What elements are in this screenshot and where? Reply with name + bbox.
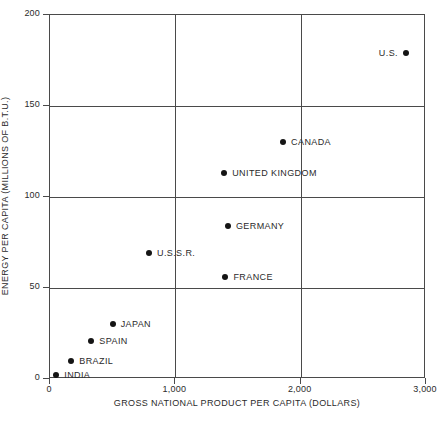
data-point-label: SPAIN — [99, 336, 127, 346]
data-point[interactable] — [221, 170, 227, 176]
gridline-y-100 — [50, 197, 424, 198]
y-tick-label-150: 150 — [0, 99, 40, 109]
data-point-label: CANADA — [291, 137, 331, 147]
data-point[interactable] — [280, 139, 286, 145]
x-tick-label-2000: 2,000 — [288, 384, 312, 394]
data-point-label: JAPAN — [121, 319, 151, 329]
y-tick-150 — [43, 105, 49, 106]
y-tick-label-0: 0 — [0, 372, 40, 382]
data-point[interactable] — [68, 358, 74, 364]
data-point[interactable] — [88, 338, 94, 344]
data-point[interactable] — [225, 223, 231, 229]
gridline-x-2000 — [301, 15, 302, 377]
y-tick-label-200: 200 — [0, 8, 40, 18]
data-point[interactable] — [403, 50, 409, 56]
data-point-label: FRANCE — [233, 272, 272, 282]
x-axis-title: GROSS NATIONAL PRODUCT PER CAPITA (DOLLA… — [49, 398, 425, 408]
data-point-label: U.S. — [379, 48, 398, 58]
gridline-y-150 — [50, 106, 424, 107]
data-point[interactable] — [110, 321, 116, 327]
data-point[interactable] — [53, 372, 59, 378]
x-tick-label-0: 0 — [46, 384, 51, 394]
data-point-label: GERMANY — [236, 221, 284, 231]
gridline-y-50 — [50, 288, 424, 289]
data-point-label: INDIA — [64, 370, 90, 380]
data-point-label: UNITED KINGDOM — [232, 168, 317, 178]
y-tick-label-50: 50 — [0, 281, 40, 291]
y-tick-label-100: 100 — [0, 190, 40, 200]
y-tick-100 — [43, 196, 49, 197]
x-tick-label-1000: 1,000 — [163, 384, 187, 394]
gridline-x-1000 — [175, 15, 176, 377]
data-point-label: U.S.S.R. — [157, 248, 195, 258]
x-tick-label-3000: 3,000 — [413, 384, 437, 394]
data-point[interactable] — [222, 274, 228, 280]
scatter-plot-figure: ENERGY PER CAPITA (MILLIONS OF B.T.U.) U… — [0, 0, 439, 421]
plot-area: U.S.CANADAUNITED KINGDOMGERMANYFRANCEU.S… — [49, 14, 425, 378]
data-point-label: BRAZIL — [79, 356, 113, 366]
y-tick-50 — [43, 287, 49, 288]
data-point[interactable] — [146, 250, 152, 256]
y-tick-200 — [43, 14, 49, 15]
